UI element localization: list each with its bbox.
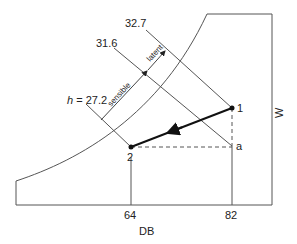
enthalpy-line-27-2 [86,104,131,147]
state-point-2 [129,145,134,150]
enthalpy-line-32-7 [146,30,232,108]
equals-sign: = [73,94,86,106]
db-lines [131,146,232,205]
enthalpy-label-31-6: 31.6 [96,37,117,49]
x-axis-label: DB [139,225,154,237]
point-a-label: a [236,140,243,152]
y-axis-label: W [273,107,285,118]
point-2-label: 2 [127,151,133,163]
x-tick-82: 82 [225,209,237,221]
process-arrow [172,127,182,131]
latent-label: latent [145,42,165,63]
component-arrows [101,51,165,120]
process-line [129,106,235,150]
state-point-1 [230,106,235,111]
enthalpy-label-27-2: h = 27.2 [67,94,107,106]
x-tick-64: 64 [124,209,136,221]
enthalpy-value: 27.2 [86,94,107,106]
psychrometric-diagram: 32.7 31.6 h = 27.2 sensible latent 1 2 a… [0,0,297,244]
enthalpy-label-32-7: 32.7 [125,17,146,29]
point-1-label: 1 [237,102,243,114]
sensible-label: sensible [106,80,133,108]
